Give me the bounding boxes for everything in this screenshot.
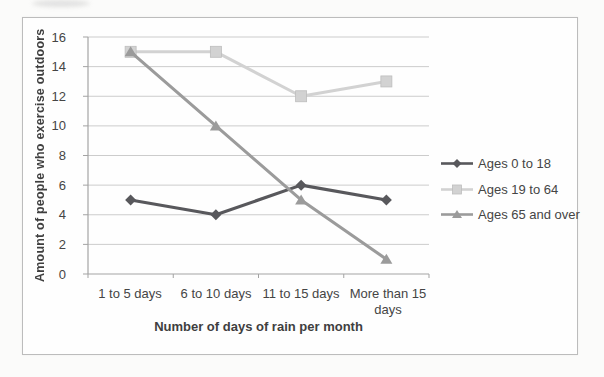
y-tick-label: 4 — [38, 207, 66, 222]
y-tick-label: 8 — [38, 148, 66, 163]
scanned-chart-page: { "chart_data": { "type": "line", "title… — [0, 0, 604, 377]
legend-item-ages-65-over: Ages 65 and over — [440, 202, 580, 228]
y-tick-label: 10 — [38, 118, 66, 133]
y-tick-label: 2 — [38, 237, 66, 252]
triangle-marker-icon — [440, 208, 474, 221]
y-tick-label: 16 — [38, 30, 66, 45]
y-tick-label: 6 — [38, 178, 66, 193]
diamond-marker-icon — [440, 157, 474, 170]
legend-label: Ages 0 to 18 — [478, 156, 551, 171]
y-tick-label: 12 — [38, 89, 66, 104]
y-axis-tick-labels: 1614121086420 — [48, 0, 76, 377]
x-axis-title: Number of days of rain per month — [88, 319, 429, 334]
legend-item-ages-19-64: Ages 19 to 64 — [440, 177, 580, 203]
legend-label: Ages 65 and over — [478, 207, 580, 222]
legend-label: Ages 19 to 64 — [478, 182, 558, 197]
legend: Ages 0 to 18 Ages 19 to 64 Ages 65 and o… — [440, 151, 580, 228]
legend-item-ages-0-18: Ages 0 to 18 — [440, 151, 580, 177]
y-tick-label: 0 — [38, 267, 66, 282]
square-marker-icon — [440, 183, 474, 196]
x-tick-label-4: More than 15 days — [336, 286, 440, 318]
y-tick-label: 14 — [38, 59, 66, 74]
